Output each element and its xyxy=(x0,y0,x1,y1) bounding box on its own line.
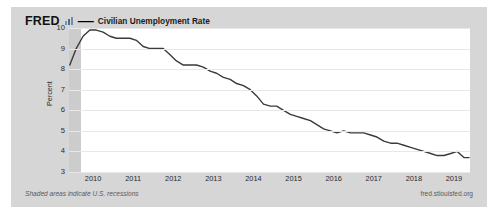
unemployment-rate-line xyxy=(69,28,470,172)
plot-area xyxy=(69,28,470,172)
gridline xyxy=(69,110,470,111)
fred-chart-glyph-icon xyxy=(65,17,74,25)
gridline xyxy=(69,69,470,70)
y-axis-tick-label: 8 xyxy=(43,65,65,73)
y-axis: Percent 109876543 xyxy=(33,28,65,172)
x-axis-tick-label: 2013 xyxy=(193,175,233,182)
gridline xyxy=(69,90,470,91)
y-axis-tick-label: 4 xyxy=(43,147,65,155)
x-axis-tick-label: 2011 xyxy=(113,175,153,182)
gridline xyxy=(69,28,470,29)
x-axis-tick-label: 2018 xyxy=(394,175,434,182)
y-axis-tick-label: 6 xyxy=(43,106,65,114)
fred-chart-card: FRED — Civilian Unemployment Rate Percen… xyxy=(11,7,487,207)
x-axis-tick-label: 2019 xyxy=(434,175,474,182)
footer-note: Shaded areas indicate U.S. recessions xyxy=(25,191,139,198)
chart-title: Civilian Unemployment Rate xyxy=(98,17,210,25)
x-axis-tick-label: 2010 xyxy=(73,175,113,182)
x-axis-tick-label: 2015 xyxy=(274,175,314,182)
x-axis: 2010201120122013201420152016201720182019 xyxy=(69,175,470,187)
y-axis-tick-label: 10 xyxy=(43,24,65,32)
footer-source-link[interactable]: fred.stlouisfed.org xyxy=(421,191,473,198)
x-axis-tick-label: 2017 xyxy=(354,175,394,182)
x-axis-tick-label: 2014 xyxy=(233,175,273,182)
y-axis-tick-label: 5 xyxy=(43,127,65,135)
y-axis-tick-label: 3 xyxy=(43,168,65,176)
gridline xyxy=(69,49,470,50)
y-axis-tick-label: 9 xyxy=(43,45,65,53)
x-axis-tick-label: 2016 xyxy=(314,175,354,182)
x-axis-tick-label: 2012 xyxy=(153,175,193,182)
gridline xyxy=(69,172,470,173)
y-axis-tick-label: 7 xyxy=(43,86,65,94)
gridline xyxy=(69,151,470,152)
gridline xyxy=(69,131,470,132)
